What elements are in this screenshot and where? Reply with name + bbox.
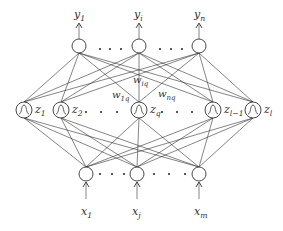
edge-xj-z1 — [24, 118, 137, 167]
edge-zl-yi — [139, 53, 253, 102]
ellipsis-output-left — [109, 48, 111, 50]
output-node-yn — [192, 39, 206, 53]
ellipsis-hidden-left — [85, 111, 87, 113]
output-label-yn: yn — [193, 8, 205, 23]
ellipsis-output-left — [120, 48, 122, 50]
edge-z2-y1 — [61, 53, 79, 102]
output-node-y1 — [72, 39, 86, 53]
input-node-x1 — [79, 167, 93, 181]
ellipsis-output-right — [170, 48, 172, 50]
input-node-xj — [130, 167, 144, 181]
weight-label-iq: wiq — [133, 74, 149, 88]
ellipsis-input-left — [99, 173, 101, 175]
edge-x1-z1 — [24, 118, 86, 167]
hidden-label-zl: zl — [263, 103, 273, 118]
ellipsis-hidden-left — [116, 111, 118, 113]
hidden-label-zl-1: zl−1 — [223, 103, 244, 118]
ellipsis-hidden-right — [161, 111, 163, 113]
hidden-node-zl — [245, 102, 261, 118]
ellipsis-hidden-right — [176, 111, 178, 113]
edge-xm-zl — [199, 118, 253, 167]
hidden-label-z1: z1 — [34, 103, 46, 118]
weight-label-nq: wnq — [158, 88, 176, 102]
edge-xj-z2 — [61, 118, 137, 167]
edge-xj-zl — [137, 118, 253, 167]
input-label-xm: xm — [194, 205, 208, 220]
edge-xm-z2 — [61, 118, 199, 167]
edge-z1-y1 — [24, 53, 79, 102]
edge-zl-1-yi — [139, 53, 213, 102]
input-label-xj: xj — [132, 205, 141, 220]
hidden-label-z2: z2 — [71, 103, 83, 118]
ellipsis-hidden-right — [191, 111, 193, 113]
ellipsis-input-left — [123, 173, 125, 175]
hidden-node-z1 — [16, 102, 32, 118]
ellipsis-output-right — [181, 48, 183, 50]
ellipsis-input-left — [111, 173, 113, 175]
ellipsis-input-right — [153, 173, 155, 175]
ellipsis-output-left — [99, 48, 101, 50]
output-label-yi: yi — [133, 8, 143, 23]
neural-network-diagram: y1yiynz1z2zqzl−1zlx1xjxmw1qwiqwnq — [0, 0, 283, 231]
labels: y1yiynz1z2zqzl−1zlx1xjxmw1qwiqwnq — [34, 8, 273, 220]
ellipsis-input-right — [184, 173, 186, 175]
ellipsis-hidden-left — [100, 111, 102, 113]
edge-zl-1-y1 — [79, 53, 213, 102]
output-node-yi — [132, 39, 146, 53]
edge-zl-1-yn — [199, 53, 213, 102]
ellipsis-input-right — [168, 173, 170, 175]
hidden-label-zq: zq — [149, 103, 161, 118]
edge-x1-zq — [86, 118, 139, 167]
input-node-xm — [192, 167, 206, 181]
hidden-node-z2 — [53, 102, 69, 118]
hidden-node-zl-1 — [205, 102, 221, 118]
hidden-node-zq — [131, 102, 147, 118]
edge-x1-zl-1 — [86, 118, 213, 167]
input-label-x1: x1 — [81, 205, 92, 220]
output-label-y1: y1 — [73, 8, 85, 23]
weight-label-1q: w1q — [112, 89, 130, 103]
edge-xj-zq — [137, 118, 139, 167]
ellipsis-output-right — [159, 48, 161, 50]
